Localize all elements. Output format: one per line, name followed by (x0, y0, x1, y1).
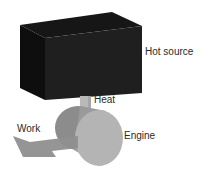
hot-source-front-face (45, 26, 142, 100)
heat-label: Heat (94, 94, 115, 105)
hot-source-label: Hot source (145, 46, 193, 57)
hot-source-left-face (20, 25, 45, 100)
work-arrow (13, 136, 78, 157)
work-label: Work (17, 123, 40, 134)
engine-front-disk (75, 110, 123, 166)
engine-label: Engine (124, 130, 155, 141)
heat-engine-diagram (0, 0, 210, 176)
hot-source-box (20, 12, 142, 100)
engine-cylinder (55, 106, 123, 166)
